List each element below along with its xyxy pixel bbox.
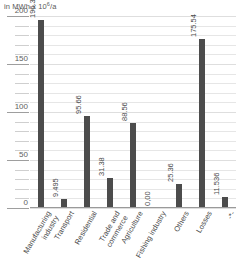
bar-value-label: 196.30 [29,0,37,18]
bar[interactable] [199,39,205,208]
bar-series: 196.309.49595.6631.3888.560,0025.36175.5… [30,16,236,208]
bar-slot: 88.56 [122,16,145,208]
bar[interactable] [84,116,90,208]
bar-slot: 9.495 [53,16,76,208]
bar-slot: 25.36 [167,16,190,208]
bar-value-label: 25.36 [167,163,175,182]
bar[interactable] [38,20,44,208]
category-label-line1: Residential [73,210,99,247]
y-axis-tick-mark [7,208,29,209]
bar-value-label: 175.54 [190,15,198,38]
y-axis-tick-mark [15,141,29,142]
y-axis-tick-mark [7,64,29,65]
y-axis-tick-mark [15,83,29,84]
y-axis-tick-label: 150 [15,54,28,63]
category-label-line1: Losses [194,210,214,235]
y-axis-tick-mark [15,170,29,171]
y-axis-tick-label: 200 [15,6,28,15]
y-axis-tick-mark [7,112,29,113]
bar-chart: in MWh x 106/a 200150100500 196.309.4959… [0,0,236,279]
bar-value-label: 95.66 [75,95,83,114]
y-axis-tick-mark [15,189,29,190]
bar-slot: 175.54 [190,16,213,208]
bar-value-label: 9.495 [52,178,60,197]
y-axis-unit-suffix: /a [50,2,56,11]
y-axis-tick-label: 100 [15,102,28,111]
bar-slot: 95.66 [76,16,99,208]
y-axis-tick-mark [15,45,29,46]
bar-value-label: 11.536 [213,173,221,195]
category-label-line1: Others [172,210,191,234]
x-axis-baseline [30,207,236,208]
y-axis-tick-mark [7,16,29,17]
bar-slot: 11.536 [213,16,236,208]
x-axis-category-label: Residential [74,210,100,246]
bar-value-label: 31.38 [98,157,106,176]
bar[interactable] [107,178,113,208]
bar-value-label: 0,00 [144,191,152,206]
category-label-line1: -*- [225,210,236,221]
plot-area: 196.309.49595.6631.3888.560,0025.36175.5… [30,16,236,208]
y-axis-tick-label: 50 [19,150,28,159]
bar-value-label: 88.56 [121,102,129,121]
x-axis-category-labels: ManufacturingindustryTransportResidentia… [30,210,236,279]
x-axis-category-label: Losses [195,210,214,235]
y-axis: 200150100500 [0,16,30,208]
y-axis-tick-mark [15,179,29,180]
y-axis-tick-mark [15,26,29,27]
y-axis-tick-mark [7,160,29,161]
x-axis-category-label: -*- [226,210,236,221]
y-axis-tick-mark [15,122,29,123]
y-axis-tick-mark [15,35,29,36]
bar[interactable] [130,123,136,208]
bar-slot: 196.30 [30,16,53,208]
y-axis-tick-label: 0 [24,198,28,207]
y-axis-tick-mark [15,93,29,94]
x-axis-category-label: Others [173,210,192,234]
bar-slot: 0,00 [144,16,167,208]
y-axis-tick-mark [15,74,29,75]
bar-slot: 31.38 [99,16,122,208]
bar[interactable] [176,184,182,208]
y-axis-tick-mark [15,131,29,132]
